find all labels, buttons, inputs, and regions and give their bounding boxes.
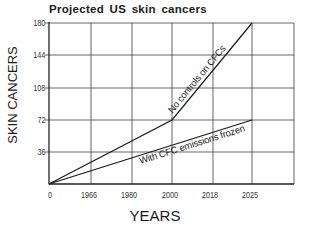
y-tick-label: 144	[33, 50, 45, 60]
y-tick-label: 108	[33, 83, 45, 93]
y-tick-label: 36	[37, 147, 45, 157]
x-axis-label: YEARS	[130, 207, 181, 224]
y-tick-label: 72	[37, 115, 45, 125]
x-tick-label: 2025	[242, 190, 258, 200]
horizontal-gridlines	[45, 23, 294, 152]
x-tick-label: 1980	[121, 190, 137, 200]
vertical-gridlines	[91, 23, 294, 184]
x-tick-label: 2018	[202, 190, 218, 200]
x-tick-label: 0	[48, 190, 52, 200]
x-tick-label: 1966	[81, 190, 97, 200]
y-tick-label: 180	[33, 18, 45, 28]
x-tick-label: 2000	[162, 190, 178, 200]
